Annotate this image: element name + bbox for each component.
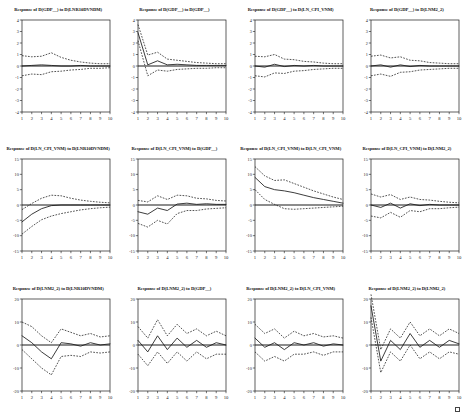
irf-panel[interactable]: Response of D(LN_CPI_VNM) to D(GDP__)151… — [116, 139, 232, 278]
y-tick-label: 1 — [17, 52, 19, 57]
irf-panel[interactable]: Response of D(LNM2_2) to D(GDP__)20100-1… — [116, 279, 232, 418]
x-tick-label: 1 — [137, 394, 140, 399]
confidence-band-line — [255, 324, 343, 338]
x-tick-label: 2 — [147, 255, 150, 260]
confidence-band-line — [371, 207, 459, 218]
confidence-band-line — [22, 68, 110, 76]
x-tick-label: 4 — [399, 116, 402, 121]
irf-panel[interactable]: Response of D(LNM2_2) to D(LNM2_2)20100-… — [349, 279, 465, 418]
confidence-band-line — [371, 294, 459, 349]
x-tick-label: 10 — [224, 116, 229, 121]
x-tick-label: 3 — [389, 255, 392, 260]
plot-area: 43210-1-2-3-412345678910 — [349, 14, 465, 134]
x-tick-label: 3 — [157, 116, 160, 121]
y-tick-label: -15 — [362, 249, 368, 254]
y-tick-label: 0 — [249, 64, 251, 69]
x-tick-label: 7 — [80, 394, 83, 399]
x-tick-label: 10 — [340, 255, 345, 260]
x-tick-label: 9 — [332, 116, 335, 121]
y-tick-label: 4 — [17, 18, 20, 23]
irf-panel[interactable]: Response of D(GDP__) to D(LNR10DVNDM)432… — [0, 0, 116, 139]
x-tick-label: 8 — [438, 116, 441, 121]
confidence-band-line — [22, 322, 110, 343]
x-tick-label: 7 — [196, 255, 199, 260]
response-line — [138, 33, 226, 66]
x-tick-label: 1 — [137, 116, 140, 121]
x-tick-label: 7 — [80, 116, 83, 121]
x-tick-label: 8 — [438, 255, 441, 260]
x-tick-label: 4 — [283, 255, 286, 260]
x-tick-label: 5 — [292, 394, 295, 399]
x-tick-label: 6 — [70, 394, 73, 399]
x-tick-label: 1 — [370, 116, 373, 121]
irf-panel[interactable]: Response of D(LNM2_2) to D(LNR10DVNDM)20… — [0, 279, 116, 418]
irf-panel[interactable]: Response of D(LN_CPI_VNM) to D(LNM2_2)15… — [349, 139, 465, 278]
x-tick-label: 5 — [176, 116, 179, 121]
irf-panel[interactable]: Response of D(LN_CPI_VNM) to D(LNR10DVND… — [0, 139, 116, 278]
x-tick-label: 6 — [418, 394, 421, 399]
y-tick-label: 3 — [17, 29, 19, 34]
irf-panel[interactable]: Response of D(LN_CPI_VNM) to D(LN_CPI_VN… — [233, 139, 349, 278]
x-tick-label: 5 — [60, 116, 63, 121]
y-tick-label: -5 — [248, 218, 252, 223]
x-tick-label: 10 — [224, 394, 229, 399]
y-tick-label: -15 — [13, 249, 19, 254]
irf-panel[interactable]: Response of D(GDP__) to D(GDP__)43210-1-… — [116, 0, 232, 139]
plot-area: 20100-10-2012345678910 — [0, 293, 116, 413]
x-tick-label: 9 — [215, 255, 218, 260]
y-tick-label: 10 — [15, 172, 19, 177]
panel-title: Response of D(LN_CPI_VNM) to D(GDP__) — [116, 146, 232, 152]
plot-area: 43210-1-2-3-412345678910 — [233, 14, 349, 134]
y-tick-label: 10 — [131, 319, 135, 324]
irf-panel[interactable]: Response of D(GDP__) to D(LNM2_2)43210-1… — [349, 0, 465, 139]
x-tick-label: 9 — [332, 394, 335, 399]
y-tick-label: 20 — [363, 296, 367, 301]
x-tick-label: 2 — [147, 116, 150, 121]
irf-panel[interactable]: Response of D(LNM2_2) to D(LN_CPI_VNM)20… — [233, 279, 349, 418]
y-tick-label: 10 — [15, 319, 19, 324]
y-tick-label: 10 — [131, 172, 135, 177]
irf-panel[interactable]: Response of D(GDP__) to D(LN_CPI_VNM)432… — [233, 0, 349, 139]
y-tick-label: 4 — [249, 18, 252, 23]
plot-area: 151050-5-10-1512345678910 — [349, 153, 465, 273]
y-tick-label: -10 — [13, 365, 19, 370]
x-tick-label: 3 — [389, 116, 392, 121]
x-tick-label: 7 — [196, 394, 199, 399]
confidence-band-line — [255, 55, 343, 64]
confidence-band-line — [255, 190, 343, 210]
x-tick-label: 1 — [137, 255, 140, 260]
plot-area: 151050-5-10-1512345678910 — [116, 153, 232, 273]
x-tick-label: 1 — [370, 255, 373, 260]
x-tick-label: 2 — [379, 255, 382, 260]
x-tick-label: 6 — [302, 255, 305, 260]
y-tick-label: -10 — [129, 365, 135, 370]
confidence-band-line — [138, 208, 226, 227]
y-tick-label: 0 — [133, 64, 135, 69]
x-tick-label: 10 — [340, 116, 345, 121]
plot-area: 20100-10-2012345678910 — [349, 293, 465, 413]
y-tick-label: -5 — [364, 218, 368, 223]
x-tick-label: 7 — [80, 255, 83, 260]
y-tick-label: -20 — [362, 388, 368, 393]
confidence-band-line — [371, 68, 459, 76]
x-tick-label: 2 — [31, 394, 34, 399]
x-tick-label: 8 — [206, 116, 209, 121]
x-tick-label: 6 — [186, 255, 189, 260]
y-tick-label: -20 — [13, 388, 19, 393]
x-tick-label: 7 — [428, 255, 431, 260]
x-tick-label: 7 — [312, 116, 315, 121]
x-tick-label: 5 — [176, 255, 179, 260]
plot-area: 20100-10-2012345678910 — [233, 293, 349, 413]
plot-area: 43210-1-2-3-412345678910 — [116, 14, 232, 134]
x-tick-label: 9 — [448, 255, 451, 260]
y-tick-label: 3 — [133, 29, 135, 34]
panel-title: Response of D(LN_CPI_VNM) to D(LN_CPI_VN… — [233, 146, 349, 152]
x-tick-label: 3 — [389, 394, 392, 399]
x-tick-label: 1 — [253, 116, 256, 121]
response-line — [22, 205, 110, 222]
y-tick-label: -4 — [132, 110, 136, 115]
confidence-band-line — [255, 68, 343, 77]
panel-title: Response of D(GDP__) to D(LNM2_2) — [349, 7, 465, 13]
x-tick-label: 5 — [176, 394, 179, 399]
x-tick-label: 8 — [322, 116, 325, 121]
